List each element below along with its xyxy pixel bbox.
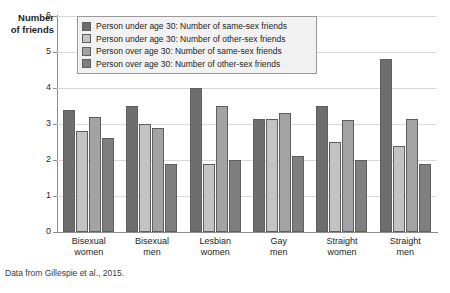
legend-label: Person under age 30: Number of other-sex… (96, 34, 285, 44)
bar (253, 119, 265, 232)
bar (419, 164, 431, 232)
bar-group (374, 16, 437, 232)
bar (216, 106, 228, 232)
bar (190, 88, 202, 232)
y-axis-tick-label: 2 (35, 154, 51, 164)
y-axis-title-line2: of friends (2, 24, 54, 36)
bar-group (310, 16, 373, 232)
bar (292, 156, 304, 232)
bar (266, 119, 278, 232)
bar (279, 113, 291, 232)
y-axis-tick-label: 6 (35, 10, 51, 20)
legend-item: Person under age 30: Number of same-sex … (82, 20, 312, 32)
bar (102, 138, 114, 232)
bar (380, 59, 392, 232)
bar (89, 117, 101, 232)
legend-swatch (82, 22, 91, 31)
legend-item: Person over age 30: Number of other-sex … (82, 58, 312, 70)
legend-item: Person under age 30: Number of other-sex… (82, 33, 312, 45)
bar (63, 110, 75, 232)
legend-label: Person over age 30: Number of other-sex … (96, 59, 280, 69)
bar (203, 164, 215, 232)
bar (139, 124, 151, 232)
bar (393, 146, 405, 232)
bar (165, 164, 177, 232)
source-caption: Data from Gillespie et al., 2015. (5, 268, 124, 278)
bar (316, 106, 328, 232)
bar (126, 106, 138, 232)
bar (329, 142, 341, 232)
bar (342, 120, 354, 232)
y-axis-tick-label: 3 (35, 118, 51, 128)
y-axis-tick-label: 1 (35, 190, 51, 200)
category-label-line: Straight (368, 236, 442, 247)
bar-chart: Number of friends 0123456 BisexualwomenB… (0, 0, 450, 293)
x-axis-category-label: Straightmen (368, 236, 442, 258)
bar (76, 131, 88, 232)
x-axis-line (57, 232, 438, 233)
legend-label: Person under age 30: Number of same-sex … (96, 21, 287, 31)
y-axis-tick-label: 4 (35, 82, 51, 92)
bar (355, 160, 367, 232)
y-axis-tick-label: 5 (35, 46, 51, 56)
legend-swatch (82, 47, 91, 56)
legend-swatch (82, 59, 91, 68)
bar (152, 128, 164, 232)
bar (406, 119, 418, 232)
category-label-line: men (368, 247, 442, 258)
y-axis-tick-mark (53, 232, 57, 233)
legend-swatch (82, 34, 91, 43)
y-axis-tick-label: 0 (35, 226, 51, 236)
legend-label: Person over age 30: Number of same-sex f… (96, 46, 282, 56)
bar (229, 160, 241, 232)
legend-item: Person over age 30: Number of same-sex f… (82, 45, 312, 57)
chart-legend: Person under age 30: Number of same-sex … (77, 16, 317, 74)
